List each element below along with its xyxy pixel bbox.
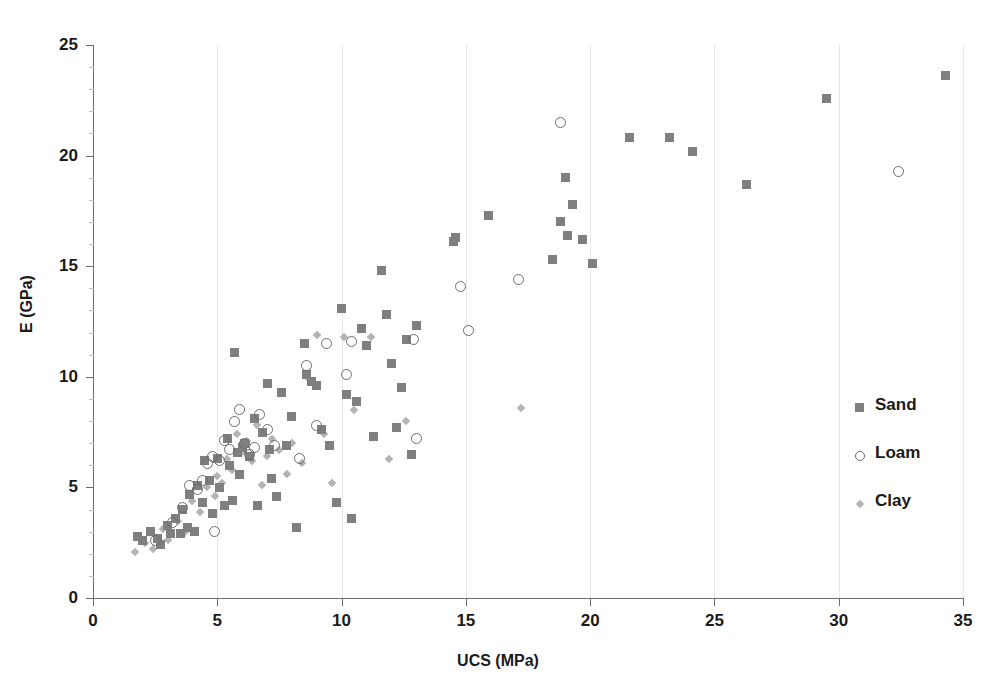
data-point-clay bbox=[131, 547, 139, 555]
data-point-clay bbox=[288, 439, 296, 447]
legend-item-sand: Sand bbox=[855, 395, 975, 443]
data-point-clay bbox=[218, 479, 226, 487]
data-point-sand bbox=[235, 470, 244, 479]
data-point-loam bbox=[408, 334, 419, 345]
data-point-sand bbox=[342, 390, 351, 399]
data-point-loam bbox=[269, 440, 280, 451]
data-point-sand bbox=[357, 324, 366, 333]
y-tick-label-0: 0 bbox=[18, 589, 78, 606]
data-point-clay bbox=[223, 454, 231, 462]
x-tick-0 bbox=[93, 598, 94, 606]
data-point-sand bbox=[449, 237, 458, 246]
data-point-sand bbox=[392, 423, 401, 432]
data-point-clay bbox=[188, 496, 196, 504]
data-point-clay bbox=[385, 454, 393, 462]
data-point-clay bbox=[196, 507, 204, 515]
data-point-clay bbox=[203, 483, 211, 491]
x-axis-title: UCS (MPa) bbox=[0, 652, 996, 670]
data-point-sand bbox=[568, 200, 577, 209]
x-tick-label-20: 20 bbox=[560, 612, 620, 629]
data-point-sand bbox=[325, 441, 334, 450]
data-point-clay bbox=[148, 545, 156, 553]
legend-label-loam: Loam bbox=[875, 443, 920, 463]
y-minor-tick bbox=[89, 111, 94, 112]
data-point-clay bbox=[238, 448, 246, 456]
data-point-loam bbox=[311, 420, 322, 431]
data-point-sand bbox=[369, 432, 378, 441]
data-point-sand bbox=[397, 383, 406, 392]
data-point-sand bbox=[292, 523, 301, 532]
data-point-sand bbox=[205, 476, 214, 485]
data-point-sand bbox=[625, 133, 634, 142]
legend-label-sand: Sand bbox=[875, 395, 917, 415]
clay-marker-icon bbox=[856, 500, 864, 508]
data-point-sand bbox=[377, 266, 386, 275]
data-point-loam bbox=[224, 444, 235, 455]
y-minor-tick bbox=[89, 133, 94, 134]
data-point-sand bbox=[153, 534, 162, 543]
data-point-sand bbox=[300, 339, 309, 348]
data-point-sand bbox=[451, 233, 460, 242]
data-point-clay bbox=[141, 538, 149, 546]
data-point-sand bbox=[688, 147, 697, 156]
data-point-loam bbox=[202, 458, 213, 469]
data-point-sand bbox=[223, 434, 232, 443]
legend: Sand Loam Clay bbox=[855, 395, 975, 539]
gridline-x-15 bbox=[466, 45, 467, 598]
data-point-sand bbox=[387, 359, 396, 368]
data-point-sand bbox=[347, 514, 356, 523]
data-point-clay bbox=[367, 333, 375, 341]
y-minor-tick bbox=[89, 421, 94, 422]
data-point-clay bbox=[163, 536, 171, 544]
sand-marker-icon bbox=[855, 403, 864, 412]
y-axis-title: E (GPa) bbox=[18, 234, 36, 374]
data-point-sand bbox=[548, 255, 557, 264]
data-point-loam bbox=[219, 435, 230, 446]
data-point-sand bbox=[183, 523, 192, 532]
y-minor-tick bbox=[89, 510, 94, 511]
y-minor-tick bbox=[89, 89, 94, 90]
x-tick-35 bbox=[963, 598, 964, 606]
data-point-sand bbox=[412, 321, 421, 330]
gridline-x-10 bbox=[342, 45, 343, 598]
data-point-loam bbox=[321, 338, 332, 349]
y-minor-tick bbox=[89, 200, 94, 201]
data-point-loam bbox=[177, 502, 188, 513]
y-tick-label-25: 25 bbox=[18, 36, 78, 53]
data-point-sand bbox=[190, 527, 199, 536]
y-tick-5 bbox=[86, 487, 94, 488]
data-point-loam bbox=[301, 360, 312, 371]
legend-label-clay: Clay bbox=[875, 491, 911, 511]
data-point-sand bbox=[742, 180, 751, 189]
data-point-sand bbox=[240, 439, 249, 448]
data-point-sand bbox=[302, 370, 311, 379]
gridline-x-20 bbox=[590, 45, 591, 598]
data-point-clay bbox=[228, 465, 236, 473]
data-point-sand bbox=[171, 514, 180, 523]
y-tick-20 bbox=[86, 156, 94, 157]
data-point-sand bbox=[253, 501, 262, 510]
data-point-clay bbox=[298, 459, 306, 467]
data-point-loam bbox=[249, 442, 260, 453]
data-point-sand bbox=[193, 481, 202, 490]
x-axis-line bbox=[93, 598, 964, 599]
data-point-loam bbox=[184, 480, 195, 491]
data-point-sand bbox=[941, 71, 950, 80]
x-tick-15 bbox=[466, 598, 467, 606]
data-point-clay bbox=[402, 417, 410, 425]
data-point-clay bbox=[173, 516, 181, 524]
data-point-sand bbox=[146, 527, 155, 536]
data-point-sand bbox=[382, 310, 391, 319]
y-tick-10 bbox=[86, 377, 94, 378]
y-minor-tick bbox=[89, 554, 94, 555]
data-point-sand bbox=[198, 498, 207, 507]
data-point-clay bbox=[268, 434, 276, 442]
data-point-sand bbox=[228, 496, 237, 505]
data-point-loam bbox=[197, 475, 208, 486]
data-point-clay bbox=[158, 525, 166, 533]
y-tick-label-20: 20 bbox=[18, 147, 78, 164]
gridline-x-30 bbox=[839, 45, 840, 598]
data-point-loam bbox=[244, 449, 255, 460]
data-point-sand bbox=[185, 490, 194, 499]
gridline-x-5 bbox=[217, 45, 218, 598]
